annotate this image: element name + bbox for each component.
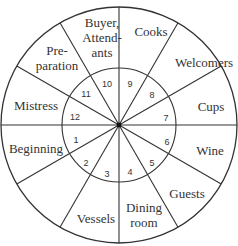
sector-number: 6 (164, 137, 169, 147)
sector-label: Welcomers (175, 55, 233, 70)
sector-number: 12 (70, 112, 80, 122)
sector-number: 9 (127, 79, 132, 89)
center-dot (117, 123, 122, 128)
sector-wheel-diagram: CooksWelcomersCupsWineGuestsDiningroomVe… (0, 0, 238, 246)
sector-number: 11 (81, 89, 90, 99)
sector-label: Vessels (77, 211, 115, 226)
sector-label: Cooks (134, 24, 167, 39)
sector-label: Buyer,Attend-ants (82, 15, 122, 60)
sector-label: Diningroom (126, 200, 163, 230)
sector-divider (17, 66, 119, 125)
sector-number: 10 (102, 79, 112, 89)
sector-number: 4 (127, 167, 132, 177)
sector-label: Mistress (14, 98, 58, 113)
sector-label: Cups (198, 99, 225, 114)
sector-number: 2 (83, 158, 88, 168)
sector-number: 1 (73, 135, 78, 145)
sector-number: 7 (163, 113, 168, 123)
sector-label: Guests (169, 186, 204, 201)
sector-label: Pre-paration (36, 43, 79, 73)
sector-divider (119, 66, 221, 125)
sector-number: 5 (149, 158, 154, 168)
sector-number: 8 (149, 90, 154, 100)
sector-label: Wine (196, 143, 224, 158)
sector-number: 3 (104, 169, 109, 179)
sector-label: Beginning (9, 141, 64, 156)
